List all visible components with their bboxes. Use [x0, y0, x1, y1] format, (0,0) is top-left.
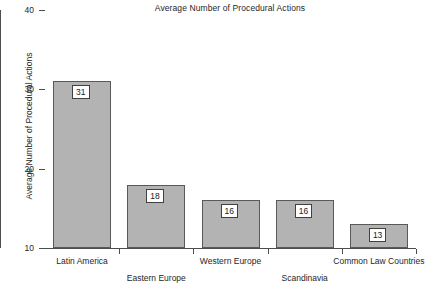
x-tick-mark — [342, 249, 343, 254]
x-tick-mark — [268, 249, 269, 254]
x-axis-category-label: Scandinavia — [282, 273, 328, 283]
bar-value-label: 16 — [221, 204, 238, 218]
bar-chart: Average Number of Procedural Actions Ave… — [0, 0, 431, 293]
y-tick-mark — [39, 89, 45, 90]
bar-value-label: 13 — [369, 228, 386, 242]
bar-value-label: 31 — [72, 85, 89, 99]
y-tick-label: 20 — [0, 164, 34, 174]
x-axis-category-label: Western Europe — [200, 256, 261, 266]
y-tick-mark — [39, 169, 45, 170]
y-tick-mark — [39, 248, 45, 249]
bar — [53, 81, 111, 248]
x-axis-category-label: Eastern Europe — [127, 273, 186, 283]
chart-title: Average Number of Procedural Actions — [45, 3, 415, 13]
x-tick-mark — [416, 249, 417, 254]
x-axis-category-label: Common Law Countries — [333, 256, 424, 266]
y-tick-mark — [39, 10, 45, 11]
y-tick-label: 30 — [0, 84, 34, 94]
bar-value-label: 16 — [295, 204, 312, 218]
y-axis-line — [0, 10, 1, 248]
x-axis-category-label: Latin America — [56, 256, 108, 266]
x-tick-mark — [119, 249, 120, 254]
y-tick-label: 10 — [0, 243, 34, 253]
x-axis-line — [45, 248, 416, 249]
y-axis-label: Average Number of Procedural Actions — [24, 11, 34, 241]
x-tick-mark — [193, 249, 194, 254]
bar-value-label: 18 — [146, 189, 163, 203]
y-tick-label: 40 — [0, 5, 34, 15]
